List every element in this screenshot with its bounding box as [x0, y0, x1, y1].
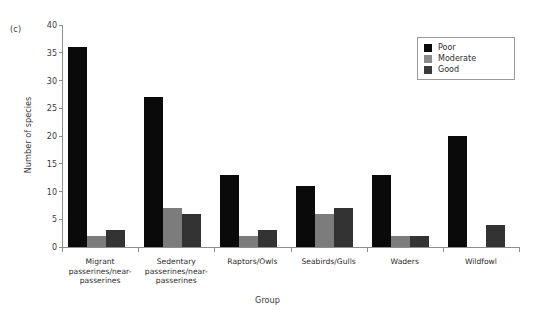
- bar-good[interactable]: [258, 230, 277, 247]
- x-axis-tick-mark: [214, 248, 215, 252]
- y-axis-tick-mark: [59, 219, 63, 220]
- bar-moderate[interactable]: [163, 208, 182, 247]
- y-axis-tick-label: 20: [47, 132, 57, 141]
- y-axis-tick-label: 35: [47, 48, 57, 57]
- bar-group-bars: [220, 25, 277, 247]
- bar-moderate[interactable]: [315, 214, 334, 247]
- y-axis-tick-label: 30: [47, 76, 57, 85]
- x-axis-tick-mark: [62, 248, 63, 252]
- bar-poor[interactable]: [372, 175, 391, 247]
- bar-group: [68, 25, 125, 247]
- bar-group: [296, 25, 353, 247]
- legend-swatch-icon-moderate: [424, 55, 432, 63]
- legend-swatch-icon-poor: [424, 44, 432, 52]
- y-axis-title: Number of species: [23, 65, 33, 205]
- legend-label-poor: Poor: [438, 43, 456, 53]
- y-axis-tick-label: 40: [47, 21, 57, 30]
- bar-good[interactable]: [410, 236, 429, 247]
- x-axis-title: Group: [0, 295, 535, 305]
- panel-label: (c): [10, 25, 21, 34]
- x-axis-tick-mark: [519, 248, 520, 252]
- bar-poor[interactable]: [296, 186, 315, 247]
- bar-moderate[interactable]: [239, 236, 258, 247]
- bar-group-bars: [296, 25, 353, 247]
- legend-item-moderate[interactable]: Moderate: [424, 53, 508, 64]
- x-axis-tick-mark: [443, 248, 444, 252]
- bar-group-bars: [144, 25, 201, 247]
- bar-good[interactable]: [486, 225, 505, 247]
- x-axis-tick-mark: [291, 248, 292, 252]
- bar-group-bars: [68, 25, 125, 247]
- y-axis-tick-mark: [59, 136, 63, 137]
- legend-label-good: Good: [438, 65, 459, 75]
- legend-item-good[interactable]: Good: [424, 64, 508, 75]
- bar-moderate[interactable]: [391, 236, 410, 247]
- bar-good[interactable]: [182, 214, 201, 247]
- bar-poor[interactable]: [68, 47, 87, 247]
- legend-item-poor[interactable]: Poor: [424, 42, 508, 53]
- legend-label-moderate: Moderate: [438, 54, 476, 64]
- y-axis-tick-mark: [59, 80, 63, 81]
- y-axis-tick-label: 0: [52, 243, 57, 252]
- y-axis-tick-mark: [59, 191, 63, 192]
- bar-good[interactable]: [334, 208, 353, 247]
- y-axis-tick-label: 15: [47, 159, 57, 168]
- bar-good[interactable]: [106, 230, 125, 247]
- bar-poor[interactable]: [448, 136, 467, 247]
- x-axis-category-label: Wildfowl: [435, 257, 527, 267]
- bar-poor[interactable]: [144, 97, 163, 247]
- x-axis-tick-mark: [138, 248, 139, 252]
- legend: Poor Moderate Good: [417, 37, 515, 80]
- y-axis-tick-mark: [59, 25, 63, 26]
- bar-group: [220, 25, 277, 247]
- legend-swatch-icon-good: [424, 66, 432, 74]
- bar-chart-figure: (c) Number of species 0510152025303540 G…: [0, 0, 535, 319]
- bar-moderate[interactable]: [87, 236, 106, 247]
- y-axis-tick-mark: [59, 52, 63, 53]
- y-axis-tick-label: 25: [47, 104, 57, 113]
- y-axis-tick-mark: [59, 163, 63, 164]
- y-axis-tick-label: 5: [52, 215, 57, 224]
- bar-group: [144, 25, 201, 247]
- bar-poor[interactable]: [220, 175, 239, 247]
- y-axis-tick-mark: [59, 108, 63, 109]
- y-axis-tick-label: 10: [47, 187, 57, 196]
- x-axis-tick-mark: [367, 248, 368, 252]
